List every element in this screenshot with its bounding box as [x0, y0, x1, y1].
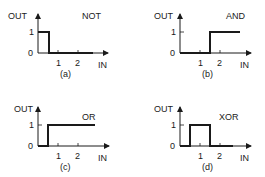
x-axis-label: IN — [98, 60, 107, 70]
panel-caption: (c) — [60, 162, 71, 172]
logic-gate-diagram: OUT 1 0 1 2 IN NOT (a) OUT 1 0 1 2 IN AN… — [0, 0, 265, 177]
transfer-curve — [38, 125, 95, 146]
y-axis-label: OUT — [14, 104, 34, 114]
y-tick-label-1: 1 — [171, 27, 176, 37]
y-tick-label-1: 1 — [29, 27, 34, 37]
panel-c-or: OUT 1 0 1 2 IN OR (c) — [14, 104, 109, 172]
x-tick-label-1: 1 — [56, 151, 61, 161]
y-tick-label-0: 0 — [28, 48, 33, 58]
gate-name: NOT — [82, 11, 102, 21]
y-tick-label-0: 0 — [170, 48, 175, 58]
y-axis-label: OUT — [8, 11, 28, 21]
transfer-curve — [180, 32, 240, 53]
y-axis-label: OUT — [154, 104, 174, 114]
x-tick-label-1: 1 — [198, 58, 203, 68]
x-tick-label-2: 2 — [75, 151, 80, 161]
x-tick-label-2: 2 — [217, 58, 222, 68]
transfer-curve — [180, 125, 233, 146]
x-axis-label: IN — [240, 153, 249, 163]
y-tick-label-1: 1 — [171, 120, 176, 130]
x-tick-label-2: 2 — [75, 58, 80, 68]
y-axis-label: OUT — [154, 11, 174, 21]
panel-caption: (b) — [202, 69, 213, 79]
panel-a-not: OUT 1 0 1 2 IN NOT (a) — [8, 11, 108, 79]
y-tick-label-1: 1 — [29, 120, 34, 130]
transfer-curve — [38, 32, 93, 53]
y-tick-label-0: 0 — [28, 141, 33, 151]
x-axis-label: IN — [98, 153, 107, 163]
gate-name: AND — [226, 11, 246, 21]
gate-name: XOR — [219, 112, 239, 122]
x-tick-label-1: 1 — [56, 58, 61, 68]
panel-d-xor: OUT 1 0 1 2 IN XOR (d) — [154, 104, 251, 172]
y-tick-label-0: 0 — [170, 141, 175, 151]
panel-b-and: OUT 1 0 1 2 IN AND (b) — [154, 11, 251, 79]
x-axis-label: IN — [240, 60, 249, 70]
panel-caption: (a) — [60, 69, 71, 79]
gate-name: OR — [82, 112, 96, 122]
x-tick-label-2: 2 — [217, 151, 222, 161]
x-tick-label-1: 1 — [198, 151, 203, 161]
panel-caption: (d) — [202, 162, 213, 172]
